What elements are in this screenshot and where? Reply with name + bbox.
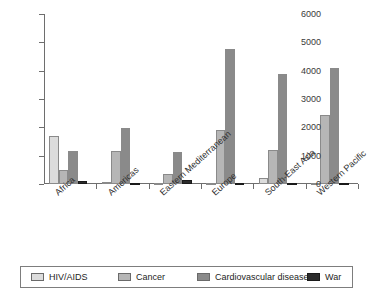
y-axis-tick-label: 6000 xyxy=(281,10,321,19)
x-axis-tick-mark xyxy=(306,184,307,189)
y-axis-tick-mark xyxy=(39,184,44,185)
y-axis-tick-label: 1000 xyxy=(281,151,321,160)
x-axis-tick-mark xyxy=(358,184,359,189)
chart-legend: HIV/AIDSCancerCardiovascular diseasesWar xyxy=(20,266,353,288)
x-axis-tick-mark xyxy=(253,184,254,189)
y-axis-tick-mark xyxy=(39,127,44,128)
x-axis-tick-mark xyxy=(149,184,150,189)
legend-swatch xyxy=(197,273,210,281)
y-axis-tick-mark xyxy=(39,42,44,43)
legend-label: Cancer xyxy=(136,273,165,282)
y-axis-tick-label: 2000 xyxy=(281,123,321,132)
y-axis-tick-label: 5000 xyxy=(281,38,321,47)
bar xyxy=(102,182,112,184)
legend-label: HIV/AIDS xyxy=(49,273,88,282)
x-axis-tick-mark xyxy=(96,184,97,189)
bar xyxy=(320,115,330,184)
bar xyxy=(182,180,192,184)
x-axis-tick-mark xyxy=(201,184,202,189)
y-axis-tick-mark xyxy=(39,14,44,15)
legend-label: Cardiovascular diseases xyxy=(215,273,313,282)
bar xyxy=(235,183,245,185)
bar-chart-figure: AfricaAmericasEastern MediterraneanEurop… xyxy=(0,0,371,305)
y-axis-tick-mark xyxy=(39,99,44,100)
bar xyxy=(130,183,140,185)
y-axis-tick-label: 3000 xyxy=(281,95,321,104)
y-axis-tick-label: 4000 xyxy=(281,66,321,75)
bar xyxy=(339,183,349,185)
legend-swatch xyxy=(31,273,44,281)
legend-item: Cardiovascular diseases xyxy=(197,273,313,282)
bar xyxy=(259,178,269,184)
bar xyxy=(154,183,164,185)
legend-item: War xyxy=(307,273,341,282)
legend-label: War xyxy=(325,273,341,282)
bar xyxy=(49,136,59,184)
legend-swatch xyxy=(118,273,131,281)
bar xyxy=(225,49,235,184)
legend-item: Cancer xyxy=(118,273,165,282)
bar xyxy=(330,68,340,184)
legend-item: HIV/AIDS xyxy=(31,273,88,282)
y-axis-tick-mark xyxy=(39,71,44,72)
y-axis-tick-mark xyxy=(39,156,44,157)
bar xyxy=(206,183,216,185)
legend-swatch xyxy=(307,273,320,281)
bar xyxy=(78,181,88,184)
y-axis-tick-label: 0 xyxy=(281,180,321,189)
